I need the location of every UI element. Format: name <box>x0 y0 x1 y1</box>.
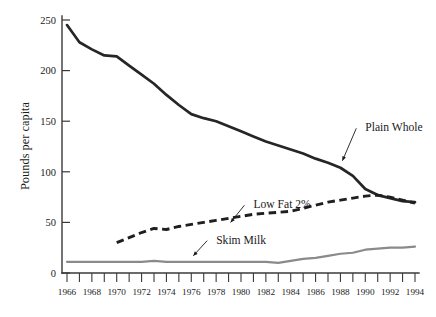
x-tick-label: 1986 <box>306 287 325 297</box>
x-tick-label: 1970 <box>108 287 127 297</box>
x-tick-label: 1968 <box>83 287 102 297</box>
x-tick-label: 1980 <box>232 287 251 297</box>
y-axis-title: Pounds per capita <box>18 101 32 190</box>
y-tick-label: 150 <box>40 116 56 127</box>
series-line-plain-whole <box>67 25 415 202</box>
x-tick-label: 1992 <box>381 287 400 297</box>
y-tick-label: 250 <box>40 15 56 26</box>
y-tick-label: 100 <box>40 167 56 178</box>
y-tick-label: 200 <box>40 65 56 76</box>
x-tick-label: 1974 <box>157 287 176 297</box>
x-tick-label: 1972 <box>132 287 151 297</box>
y-axis-ticks: 050100150200250 <box>40 15 70 279</box>
annotation-label-low-fat-2: Low Fat 2% <box>253 198 311 211</box>
annotation-group: Plain WholeLow Fat 2%Skim Milk <box>193 121 422 256</box>
x-axis-ticks: 1966196819701972197419761978198019821984… <box>58 273 425 297</box>
x-tick-label: 1984 <box>282 287 301 297</box>
x-tick-label: 1988 <box>331 287 350 297</box>
series-group <box>67 25 415 263</box>
annotation-label-skim-milk: Skim Milk <box>216 234 266 247</box>
x-tick-label: 1994 <box>406 287 425 297</box>
x-tick-label: 1982 <box>257 287 276 297</box>
chart-container: Pounds per capita 050100150200250 196619… <box>0 0 436 317</box>
x-tick-label: 1990 <box>356 287 375 297</box>
annotation-leader-plain-whole <box>342 128 356 160</box>
y-axis-title-text: Pounds per capita <box>18 101 32 190</box>
y-tick-label: 0 <box>51 268 56 279</box>
x-tick-label: 1978 <box>207 287 226 297</box>
series-line-skim-milk <box>67 247 415 263</box>
annotation-label-plain-whole: Plain Whole <box>365 121 422 134</box>
x-tick-label: 1966 <box>58 287 77 297</box>
line-chart: Pounds per capita 050100150200250 196619… <box>0 0 436 317</box>
x-tick-label: 1976 <box>182 287 201 297</box>
y-tick-label: 50 <box>46 217 57 228</box>
